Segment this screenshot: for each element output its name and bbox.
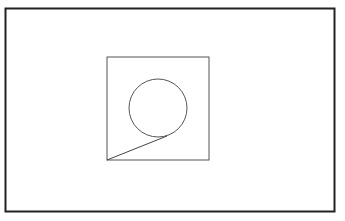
diagram-canvas — [0, 0, 345, 221]
outer-frame — [6, 9, 335, 212]
connecting-line — [107, 136, 167, 160]
inner-circle — [129, 79, 187, 137]
inner-square — [107, 57, 209, 160]
